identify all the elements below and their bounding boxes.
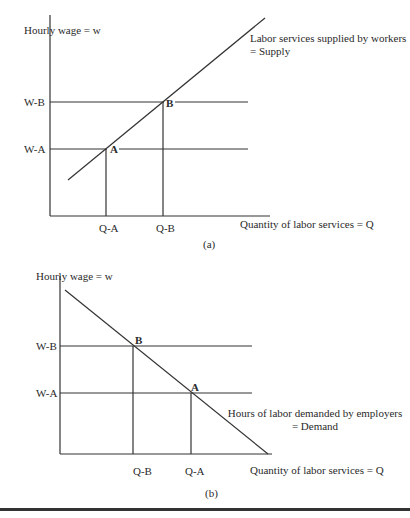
- panel-a-tick-qa: Q-A: [99, 222, 119, 235]
- bottom-divider: [0, 508, 410, 511]
- diagram-canvas: [0, 0, 410, 518]
- panel-a-x-axis-label: Quantity of labor services = Q: [240, 218, 374, 231]
- panel-b-tick-qb: Q-B: [133, 465, 152, 478]
- panel-b-demand-label-line2: = Demand: [225, 420, 405, 433]
- panel-a-y-axis-label: Hourly wage = w: [24, 24, 101, 37]
- panel-a-caption: (a): [203, 238, 215, 251]
- panel-b-y-axis-label: Hourly wage = w: [36, 270, 113, 283]
- panel-b-point-b: B: [135, 334, 142, 347]
- panel-b-point-a: A: [191, 381, 199, 394]
- panel-a-graphics: [50, 15, 270, 216]
- panel-b-demand-label-line1: Hours of labor demanded by employers: [225, 407, 405, 420]
- panel-b-tick-wb: W-B: [36, 340, 57, 353]
- panel-a-supply-label-line1: Labor services supplied by workers: [250, 32, 406, 45]
- panel-a-tick-qb: Q-B: [156, 222, 175, 235]
- panel-a-supply-label-line2: = Supply: [250, 45, 290, 58]
- panel-b-tick-qa: Q-A: [185, 465, 205, 478]
- panel-b-caption: (b): [205, 487, 218, 500]
- panel-b-tick-wa: W-A: [36, 387, 57, 400]
- panel-b-x-axis-label: Quantity of labor services = Q: [250, 464, 384, 477]
- panel-a-tick-wb: W-B: [24, 96, 45, 109]
- panel-a-point-a: A: [110, 143, 118, 156]
- panel-a-tick-wa: W-A: [24, 143, 45, 156]
- panel-a-point-b: B: [166, 97, 173, 110]
